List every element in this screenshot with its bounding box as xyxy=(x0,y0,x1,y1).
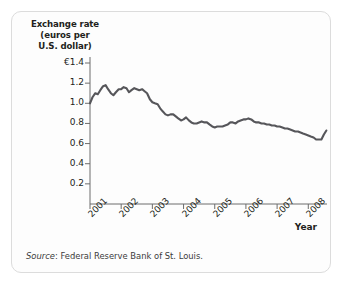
y-tick-label-2: 1.0 xyxy=(38,97,84,107)
data-line-exchange-rate xyxy=(90,85,326,139)
tick-marks xyxy=(85,63,308,209)
x-axis-title: Year xyxy=(295,222,317,232)
y-tick-label-0: €1.4 xyxy=(38,57,84,67)
y-tick-label-3: 0.8 xyxy=(38,117,84,127)
figure-panel: Exchange rate (euros per U.S. dollar) €1… xyxy=(11,11,331,273)
y-tick-label-4: 0.6 xyxy=(38,138,84,148)
y-tick-label-5: 0.4 xyxy=(38,158,84,168)
source-word: Source xyxy=(26,251,55,261)
source-note: Source: Federal Reserve Bank of St. Loui… xyxy=(26,251,203,261)
y-tick-label-1: 1.2 xyxy=(38,77,84,87)
source-body: : Federal Reserve Bank of St. Louis. xyxy=(55,251,203,261)
y-tick-label-6: 0.2 xyxy=(38,178,84,188)
